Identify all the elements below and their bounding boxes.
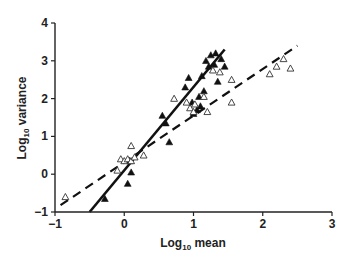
x-tick-label: 2 (259, 217, 266, 231)
open-triangle-marker (228, 76, 235, 82)
scatter-chart: −10123 −101234 Log10 mean Log10 variance (0, 0, 352, 259)
filled-triangle-marker (182, 84, 189, 90)
open-triangle-marker (200, 93, 207, 99)
filled-triangle-marker (214, 78, 221, 84)
filled-triangle-marker (203, 57, 210, 63)
open-triangle-marker (128, 142, 135, 148)
x-tick-label: −1 (48, 217, 62, 231)
y-axis-ticks: −101234 (34, 16, 55, 219)
open-triangle-marker (273, 63, 280, 69)
open-triangle-marker (204, 108, 211, 114)
open-triangle-marker (62, 193, 69, 199)
fit-lines (61, 46, 298, 212)
filled-triangle-marker (159, 112, 166, 118)
open-triangle-marker (171, 95, 178, 101)
open-triangle-marker (287, 65, 294, 71)
filled-triangle-marker (128, 169, 135, 175)
open-triangle-marker (216, 69, 223, 75)
filled-triangle-marker (212, 50, 219, 56)
y-tick-label: 4 (41, 16, 48, 30)
y-tick-label: −1 (34, 205, 48, 219)
open-triangle-marker (140, 152, 147, 158)
filled-triangle-marker (185, 74, 192, 80)
x-tick-label: 3 (329, 217, 336, 231)
y-axis-title: Log10 variance (15, 76, 31, 159)
filled-triangle-marker (166, 139, 173, 145)
x-tick-label: 1 (190, 217, 197, 231)
open-triangle-marker (280, 56, 287, 62)
y-tick-label: 0 (41, 167, 48, 181)
open-triangle-marker (228, 99, 235, 105)
open-triangle-marker (266, 71, 273, 77)
y-tick-label: 2 (41, 92, 48, 106)
y-tick-label: 1 (41, 129, 48, 143)
solid-fit-line (90, 49, 225, 212)
x-axis-ticks: −10123 (48, 212, 336, 231)
filled-triangle-marker (221, 63, 228, 69)
x-axis-title: Log10 mean (160, 236, 226, 252)
x-tick-label: 0 (121, 217, 128, 231)
filled-triangle-marker (124, 180, 131, 186)
dashed-fit-line (61, 46, 298, 206)
y-tick-label: 3 (41, 54, 48, 68)
